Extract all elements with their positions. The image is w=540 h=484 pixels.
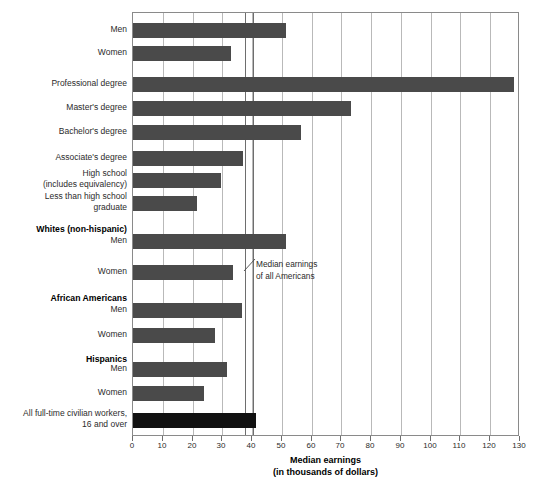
category-label: Master's degree <box>0 102 127 113</box>
category-label: Professional degree <box>0 78 127 89</box>
category-label: Women <box>0 387 127 398</box>
x-axis-tick-label: 40 <box>247 441 256 450</box>
category-label: Less than high school graduate <box>0 191 127 212</box>
category-label: Women <box>0 47 127 58</box>
bar <box>133 303 242 318</box>
bar <box>133 328 215 343</box>
bar <box>133 101 351 116</box>
x-axis-title-line-2: (in thousands of dollars) <box>132 467 519 479</box>
x-axis-tick-label: 100 <box>423 441 436 450</box>
bar <box>133 362 227 377</box>
category-label: Men <box>0 235 127 246</box>
x-axis-tick-label: 120 <box>482 441 495 450</box>
category-group-label: Whites (non-hispanic) <box>0 224 127 235</box>
x-axis-tick-label: 50 <box>277 441 286 450</box>
category-label: Women <box>0 329 127 340</box>
category-label: Men <box>0 24 127 35</box>
bar <box>133 196 197 211</box>
median-earnings-annotation: Median earnings of all Americans <box>256 258 317 282</box>
x-axis-tick-label: 70 <box>336 441 345 450</box>
bar <box>133 413 256 428</box>
x-axis-tick-label: 0 <box>130 441 134 450</box>
bar <box>133 125 301 140</box>
x-axis-tick-label: 130 <box>512 441 525 450</box>
x-axis-title-line-1: Median earnings <box>132 455 519 467</box>
x-axis-tick-label: 110 <box>453 441 466 450</box>
bar <box>133 46 231 61</box>
plot-area <box>132 12 519 436</box>
x-axis-tick-label: 30 <box>217 441 226 450</box>
bar <box>133 23 286 38</box>
x-axis-tick-label: 60 <box>307 441 316 450</box>
x-axis-tick-label: 20 <box>188 441 197 450</box>
x-axis-title: Median earnings (in thousands of dollars… <box>132 455 519 478</box>
bar <box>133 173 221 188</box>
category-label: Men <box>0 363 127 374</box>
x-axis-tick-label: 10 <box>158 441 167 450</box>
category-label: Associate's degree <box>0 152 127 163</box>
bar <box>133 386 204 401</box>
x-axis-tick-label: 80 <box>366 441 375 450</box>
bar <box>133 234 286 249</box>
category-group-label: African Americans <box>0 293 127 304</box>
category-label: Bachelor's degree <box>0 126 127 137</box>
x-axis-tick-label: 90 <box>396 441 405 450</box>
bar <box>133 151 243 166</box>
bar <box>133 265 233 280</box>
category-label: High school (includes equivalency) <box>0 168 127 189</box>
category-label: All full-time civilian workers, 16 and o… <box>0 408 127 429</box>
bar <box>133 77 514 92</box>
chart-page: MenWomenProfessional degreeMaster's degr… <box>0 0 540 484</box>
category-label: Women <box>0 266 127 277</box>
category-label: Men <box>0 304 127 315</box>
